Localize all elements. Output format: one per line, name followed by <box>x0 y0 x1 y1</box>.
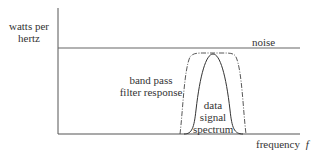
signal-label: data signal spectrum <box>193 99 233 135</box>
signal-label-line1: data <box>193 99 233 111</box>
noise-label: noise <box>252 36 275 48</box>
x-axis-label-text: frequency <box>256 138 300 150</box>
filter-label-line2: filter response <box>116 86 186 98</box>
filter-label: band pass filter response <box>116 74 186 98</box>
y-axis-label-line1: watts per <box>2 20 56 32</box>
x-axis-symbol: f <box>306 138 309 150</box>
y-axis-label: watts per hertz <box>2 20 56 44</box>
signal-label-line3: spectrum <box>193 123 233 135</box>
x-axis-label: frequency f <box>256 138 309 150</box>
filter-label-line1: band pass <box>116 74 186 86</box>
signal-label-line2: signal <box>193 111 233 123</box>
spectrum-diagram: watts per hertz noise band pass filter r… <box>0 0 317 156</box>
y-axis-label-line2: hertz <box>2 32 56 44</box>
